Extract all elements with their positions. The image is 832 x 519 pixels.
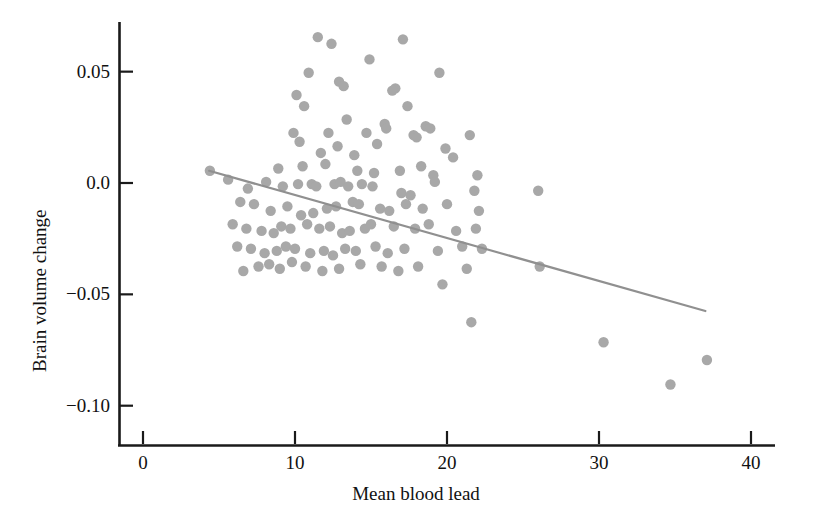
data-point	[533, 186, 543, 196]
data-point	[354, 199, 364, 209]
data-point	[290, 244, 300, 254]
data-point	[372, 139, 382, 149]
data-point	[340, 244, 350, 254]
data-point	[355, 259, 365, 269]
plot-canvas	[0, 0, 832, 519]
data-point	[291, 90, 301, 100]
data-point	[256, 226, 266, 236]
data-point	[320, 159, 330, 169]
x-axis-tick-label: 40	[711, 453, 791, 472]
data-point	[241, 223, 251, 233]
data-point	[384, 206, 394, 216]
data-point	[375, 203, 385, 213]
data-point	[425, 123, 435, 133]
y-axis-title: Brain volume change	[30, 209, 49, 372]
data-point	[401, 199, 411, 209]
data-point	[299, 101, 309, 111]
data-point	[471, 223, 481, 233]
x-axis-ticks	[143, 431, 751, 444]
data-point	[275, 264, 285, 274]
data-point	[416, 161, 426, 171]
data-point	[272, 246, 282, 256]
data-point	[665, 379, 675, 389]
data-point	[249, 199, 259, 209]
data-point	[598, 337, 608, 347]
data-point	[293, 179, 303, 189]
y-axis-tick-label: 0.0	[30, 173, 110, 192]
data-point	[246, 244, 256, 254]
data-point	[411, 132, 421, 142]
y-axis-tick-label: −0.10	[30, 396, 110, 415]
data-point	[433, 246, 443, 256]
data-point	[376, 261, 386, 271]
data-point	[345, 226, 355, 236]
x-axis-tick-label: 20	[407, 453, 487, 472]
data-point	[466, 317, 476, 327]
data-point	[311, 181, 321, 191]
data-point	[294, 137, 304, 147]
data-point	[440, 143, 450, 153]
data-point	[343, 181, 353, 191]
data-point	[238, 266, 248, 276]
data-point	[264, 259, 274, 269]
data-point	[265, 206, 275, 216]
data-point	[469, 186, 479, 196]
data-point	[367, 181, 377, 191]
data-point	[474, 206, 484, 216]
x-axis-title: Mean blood lead	[0, 484, 832, 503]
data-point	[448, 152, 458, 162]
data-point	[430, 177, 440, 187]
data-point	[305, 248, 315, 258]
y-axis-ticks	[120, 72, 133, 406]
data-point	[316, 148, 326, 158]
y-axis-tick-label: 0.05	[30, 62, 110, 81]
data-point	[399, 244, 409, 254]
data-point	[282, 201, 292, 211]
data-point	[338, 81, 348, 91]
data-point	[319, 246, 329, 256]
data-point	[366, 219, 376, 229]
data-point	[451, 226, 461, 236]
data-points-group	[205, 32, 712, 390]
x-axis-tick-label: 10	[255, 453, 335, 472]
data-point	[361, 128, 371, 138]
data-point	[281, 241, 291, 251]
data-point	[341, 114, 351, 124]
data-point	[387, 85, 397, 95]
x-axis-tick-label: 30	[559, 453, 639, 472]
data-point	[313, 32, 323, 42]
data-point	[364, 54, 374, 64]
data-point	[253, 261, 263, 271]
data-point	[402, 101, 412, 111]
data-point	[302, 219, 312, 229]
data-point	[317, 266, 327, 276]
data-point	[297, 161, 307, 171]
data-point	[462, 264, 472, 274]
data-point	[393, 266, 403, 276]
data-point	[351, 246, 361, 256]
data-point	[323, 128, 333, 138]
data-point	[413, 261, 423, 271]
data-point	[276, 221, 286, 231]
data-point	[381, 123, 391, 133]
data-point	[243, 183, 253, 193]
data-point	[398, 34, 408, 44]
data-point	[349, 150, 359, 160]
data-point	[465, 130, 475, 140]
data-point	[332, 141, 342, 151]
scatter-plot-figure: 0.050.0−0.05−0.10010203040 Mean blood le…	[0, 0, 832, 519]
data-point	[434, 68, 444, 78]
data-point	[352, 166, 362, 176]
data-point	[396, 188, 406, 198]
data-point	[325, 221, 335, 231]
regression-line	[209, 171, 705, 311]
data-point	[235, 197, 245, 207]
data-point	[395, 166, 405, 176]
data-point	[328, 250, 338, 260]
data-point	[287, 257, 297, 267]
data-point	[227, 219, 237, 229]
data-point	[303, 68, 313, 78]
data-point	[472, 170, 482, 180]
data-point	[369, 168, 379, 178]
data-point	[288, 128, 298, 138]
